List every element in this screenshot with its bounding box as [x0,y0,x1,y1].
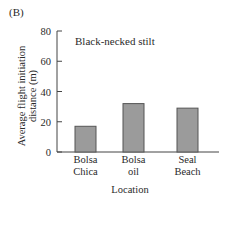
x-category-label-line: oil [109,166,159,178]
x-category-label: Bolsaoil [109,154,159,177]
y-tick-label: 20 [41,116,52,127]
y-tick-label: 60 [41,56,52,67]
bar [177,108,198,152]
y-tick-label: 0 [46,147,51,158]
x-category-label-line: Chica [61,166,111,178]
x-category-label-line: Bolsa [109,154,159,166]
bar [75,126,96,152]
x-category-label: BolsaChica [61,154,111,177]
x-category-label-line: Beach [163,166,213,178]
x-category-label-line: Bolsa [61,154,111,166]
x-category-label-line: Seal [163,154,213,166]
bar [123,104,144,152]
y-tick-label: 80 [41,26,52,37]
y-tick-label: 40 [41,86,52,97]
x-axis-label: Location [111,184,148,195]
x-category-label: SealBeach [163,154,213,177]
